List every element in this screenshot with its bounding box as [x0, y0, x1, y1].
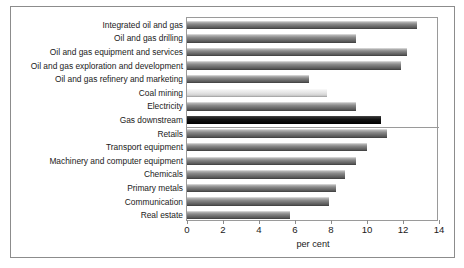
bar — [187, 129, 387, 137]
bar-row: Oil and gas exploration and development — [187, 59, 437, 73]
category-label: Real estate — [141, 211, 183, 219]
bar-row: Retails — [187, 127, 437, 141]
category-label: Electricity — [147, 102, 183, 110]
plot-area: Integrated oil and gasOil and gas drilli… — [186, 17, 438, 221]
bar — [187, 197, 329, 205]
bar-row: Integrated oil and gas — [187, 18, 437, 32]
bar — [187, 116, 381, 124]
x-tick-label: 0 — [184, 225, 189, 235]
category-label: Integrated oil and gas — [102, 21, 183, 29]
category-label: Retails — [157, 129, 183, 137]
bar-row: Coal mining — [187, 86, 437, 100]
bar — [187, 61, 401, 69]
category-label: Machinery and computer equipment — [49, 157, 183, 165]
bar — [187, 170, 345, 178]
bar-row: Communication — [187, 195, 437, 209]
category-label: Transport equipment — [106, 143, 183, 151]
category-label: Chemicals — [144, 170, 183, 178]
bar-row: Real estate — [187, 208, 437, 222]
bar-row: Electricity — [187, 100, 437, 114]
x-tick-label: 14 — [434, 225, 445, 235]
category-label: Primary metals — [127, 184, 183, 192]
bar-row: Machinery and computer equipment — [187, 154, 437, 168]
bar-row: Oil and gas equipment and services — [187, 45, 437, 59]
bar — [187, 75, 309, 83]
bars-container: Integrated oil and gasOil and gas drilli… — [187, 18, 437, 220]
x-tick-label: 4 — [256, 225, 261, 235]
bar-row: Transport equipment — [187, 140, 437, 154]
bar — [187, 211, 290, 219]
category-label: Oil and gas drilling — [114, 34, 183, 42]
category-label: Oil and gas refinery and marketing — [55, 75, 183, 83]
category-label: Communication — [125, 197, 183, 205]
bar-row: Oil and gas refinery and marketing — [187, 72, 437, 86]
category-label: Coal mining — [139, 89, 183, 97]
bar — [187, 89, 327, 97]
x-axis-title: per cent — [296, 239, 329, 249]
bar — [187, 184, 336, 192]
x-tick-label: 6 — [292, 225, 297, 235]
x-tick-label: 2 — [220, 225, 225, 235]
bar — [187, 143, 367, 151]
bar-row: Oil and gas drilling — [187, 32, 437, 46]
category-label: Gas downstream — [120, 116, 183, 124]
bar-row: Chemicals — [187, 168, 437, 182]
bar — [187, 34, 356, 42]
bar — [187, 21, 417, 29]
x-tick-label: 12 — [398, 225, 409, 235]
bar — [187, 157, 356, 165]
category-label: Oil and gas exploration and development — [31, 61, 183, 69]
bar — [187, 102, 356, 110]
chart-figure: Integrated oil and gasOil and gas drilli… — [10, 6, 455, 258]
x-tick-label: 10 — [362, 225, 373, 235]
bar-row: Primary metals — [187, 181, 437, 195]
bar — [187, 48, 407, 56]
x-tick-label: 8 — [328, 225, 333, 235]
category-label: Oil and gas equipment and services — [50, 48, 183, 56]
sector-divider — [187, 127, 439, 128]
bar-row: Gas downstream — [187, 113, 437, 127]
